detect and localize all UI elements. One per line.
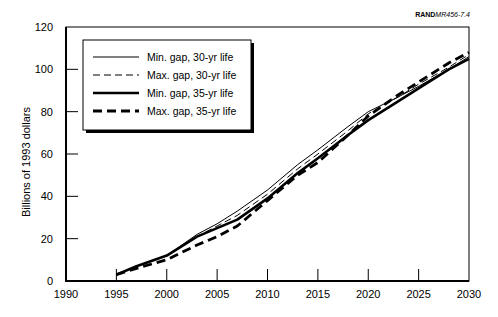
y-tick-label: 20 [41, 233, 53, 245]
x-tick-label: 1995 [104, 288, 128, 300]
y-tick-label: 0 [47, 275, 53, 287]
x-tick-label: 2020 [356, 288, 380, 300]
y-axis-title: Billions of 1993 dollars [20, 106, 32, 217]
x-tick-label: 2030 [457, 288, 481, 300]
x-tick-label: 2025 [406, 288, 430, 300]
y-tick-label: 120 [35, 21, 53, 33]
y-tick-label: 60 [41, 148, 53, 160]
legend-label: Max. gap, 30-yr life [147, 69, 236, 81]
x-tick-label: 2005 [205, 288, 229, 300]
y-tick-label: 40 [41, 190, 53, 202]
y-tick-label: 80 [41, 106, 53, 118]
legend-label: Min. gap, 30-yr life [147, 51, 234, 63]
x-tick-label: 1990 [54, 288, 78, 300]
x-tick-label: 2000 [155, 288, 179, 300]
legend-label: Min. gap, 35-yr life [147, 87, 234, 99]
x-tick-label: 2015 [306, 288, 330, 300]
x-tick-label: 2010 [255, 288, 279, 300]
y-tick-label: 100 [35, 63, 53, 75]
legend-label: Max. gap, 35-yr life [147, 105, 236, 117]
line-chart: 0204060801001201990199520002005201020152… [0, 0, 498, 317]
